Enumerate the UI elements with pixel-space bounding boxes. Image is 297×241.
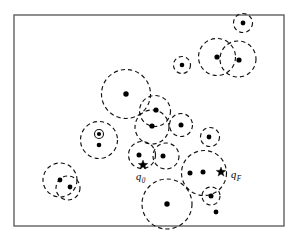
node-isolated-bottom: [214, 210, 219, 215]
node-bottom-left-b: [68, 185, 73, 190]
node-goal-small: [209, 194, 214, 199]
goal-config-label: qF: [231, 169, 242, 183]
ball-left-concentric: [81, 122, 118, 159]
node-bottom-left-a: [58, 178, 63, 183]
ball-mid-low-right: [153, 143, 179, 169]
node-layer: [58, 21, 246, 215]
node-mid-low-right: [161, 154, 166, 159]
node-goal-mid: [201, 170, 206, 175]
goal-config-label-base: q: [231, 169, 236, 180]
node-center-lower: [149, 123, 154, 128]
node-bottom-large: [164, 201, 169, 206]
node-upper-right-left: [214, 54, 219, 59]
start-config-label-subscript: 0: [142, 177, 146, 185]
node-center-upper: [153, 107, 158, 112]
node-mid-right-b: [207, 135, 212, 140]
node-goal-left: [188, 171, 193, 176]
node-left-inner: [97, 132, 101, 136]
node-mid-right-a: [179, 123, 184, 128]
node-center-large: [123, 91, 128, 96]
node-upper-right-right: [236, 57, 241, 62]
node-upper-mid: [180, 63, 185, 68]
goal-config-star: [216, 167, 226, 176]
ball-layer: [43, 14, 256, 230]
workspace-boundary: [14, 15, 284, 226]
node-top-right: [241, 21, 246, 26]
start-config-label-base: q: [136, 171, 141, 182]
node-mid-low-left: [137, 153, 142, 158]
start-config-label: q0: [136, 171, 146, 185]
figure-canvas: q0qF: [0, 0, 297, 241]
node-left-lower: [97, 143, 102, 148]
roadmap-diagram: q0qF: [0, 0, 297, 241]
goal-config-label-subscript: F: [236, 175, 242, 183]
